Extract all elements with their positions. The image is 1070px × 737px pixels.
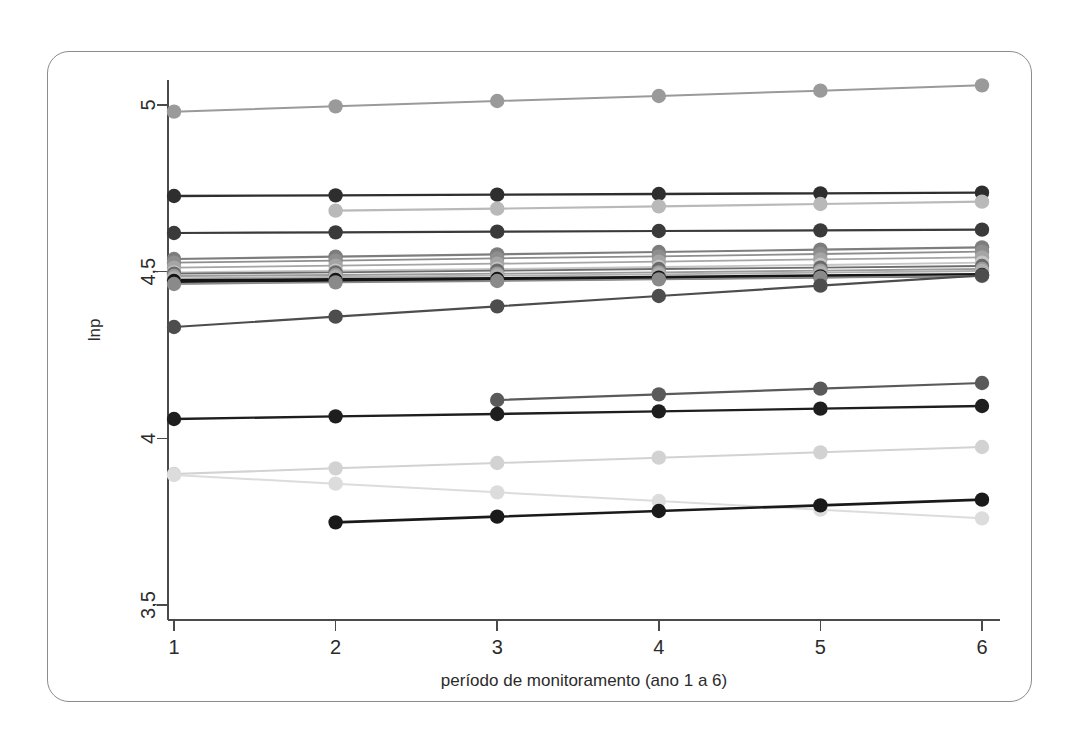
series-group: [167, 78, 989, 529]
series-line-s01: [174, 85, 982, 111]
series-point-s16: [490, 407, 504, 421]
series-point-s18: [167, 468, 181, 482]
series-point-s17: [975, 440, 989, 454]
series-point-s19: [652, 504, 666, 518]
series-point-s16: [328, 409, 342, 423]
x-tick-label: 4: [653, 636, 664, 658]
series-point-s19: [490, 509, 504, 523]
series-point-s04: [167, 226, 181, 240]
series-point-s14: [490, 299, 504, 313]
series-point-s13: [167, 277, 181, 291]
series-point-s18: [328, 476, 342, 490]
series-point-s04: [813, 223, 827, 237]
series-point-s18: [975, 511, 989, 525]
series-point-s01: [975, 78, 989, 92]
series-point-s03: [490, 201, 504, 215]
series-point-s02: [652, 187, 666, 201]
series-point-s14: [328, 309, 342, 323]
series-point-s15: [813, 381, 827, 395]
series-point-s01: [652, 89, 666, 103]
series-point-s01: [813, 83, 827, 97]
series-point-s16: [813, 401, 827, 415]
x-axis-title: período de monitoramento (ano 1 a 6): [441, 671, 727, 690]
series-point-s17: [328, 461, 342, 475]
series-point-s15: [652, 387, 666, 401]
series-point-s03: [975, 194, 989, 208]
series-point-s04: [328, 225, 342, 239]
series-point-s02: [167, 189, 181, 203]
series-point-s03: [813, 197, 827, 211]
series-point-s19: [813, 498, 827, 512]
x-tick-label: 3: [492, 636, 503, 658]
series-line-s16: [174, 406, 982, 419]
y-tick-label: 3,5: [137, 591, 159, 619]
series-point-s14: [975, 268, 989, 282]
series-point-s13: [652, 272, 666, 286]
series-point-s01: [328, 99, 342, 113]
series-point-s19: [975, 492, 989, 506]
series-point-s15: [490, 393, 504, 407]
series-point-s16: [652, 404, 666, 418]
series-point-s03: [328, 203, 342, 217]
series-line-s07: [174, 257, 982, 267]
y-tick-label: 5: [137, 99, 159, 110]
series-point-s13: [490, 274, 504, 288]
series-point-s04: [490, 224, 504, 238]
series-point-s18: [490, 485, 504, 499]
x-tick-label: 2: [330, 636, 341, 658]
series-point-s13: [328, 275, 342, 289]
series-line-s04: [174, 230, 982, 233]
series-point-s02: [328, 188, 342, 202]
series-point-s16: [975, 399, 989, 413]
series-line-s02: [174, 193, 982, 196]
series-line-s18: [174, 475, 982, 518]
series-point-s01: [167, 104, 181, 118]
series-point-s17: [490, 456, 504, 470]
y-tick-label: 4,5: [137, 258, 159, 286]
x-tick-label: 1: [168, 636, 179, 658]
series-point-s14: [813, 278, 827, 292]
series-point-s19: [328, 515, 342, 529]
series-point-s04: [975, 222, 989, 236]
y-tick-label: 4: [137, 433, 159, 444]
series-line-s15: [497, 383, 982, 400]
figure-root: 3,544,55123456período de monitoramento (…: [0, 0, 1070, 737]
line-chart: 3,544,55123456período de monitoramento (…: [0, 0, 1070, 737]
series-point-s15: [975, 376, 989, 390]
series-point-s03: [652, 199, 666, 213]
x-tick-label: 5: [815, 636, 826, 658]
y-axis-title: lnp: [85, 319, 104, 342]
series-point-s01: [490, 94, 504, 108]
series-point-s14: [167, 320, 181, 334]
series-point-s16: [167, 412, 181, 426]
series-point-s17: [813, 445, 827, 459]
series-line-s17: [174, 447, 982, 474]
series-point-s17: [652, 450, 666, 464]
series-point-s14: [652, 289, 666, 303]
series-point-s04: [652, 224, 666, 238]
x-tick-label: 6: [976, 636, 987, 658]
series-point-s02: [490, 187, 504, 201]
